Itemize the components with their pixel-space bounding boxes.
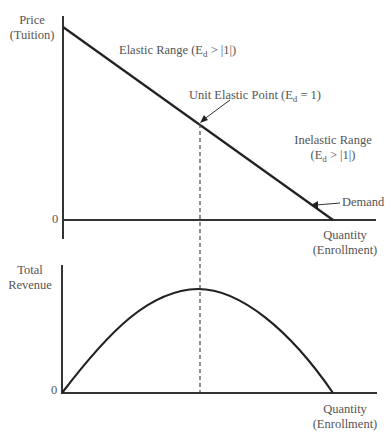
unit-point-arrow [203, 100, 230, 120]
unit-elastic-point-label: Unit Elastic Point (Ed = 1) [189, 88, 321, 103]
quantity-line2: (Enrollment) [300, 243, 390, 258]
tr-label-line2: Revenue [2, 278, 58, 293]
top-origin-label: 0 [52, 212, 58, 227]
inelastic-line1: Inelastic Range [283, 133, 383, 148]
quantity-line2: (Enrollment) [300, 417, 390, 432]
tr-label-line1: Total [2, 263, 58, 278]
elastic-range-label: Elastic Range (Ed > |1|) [119, 43, 236, 58]
total-revenue-curve [62, 289, 333, 393]
price-label-line1: Price [4, 13, 60, 28]
demand-arrow [316, 203, 340, 205]
total-revenue-axis-label: Total Revenue [2, 263, 58, 293]
price-axis-label: Price (Tuition) [4, 13, 60, 43]
price-label-line2: (Tuition) [4, 28, 60, 43]
quantity-line1: Quantity [300, 228, 390, 243]
top-quantity-axis-label: Quantity (Enrollment) [300, 228, 390, 258]
inelastic-range-label: Inelastic Range (Ed > |1|) [283, 133, 383, 163]
bottom-quantity-axis-label: Quantity (Enrollment) [300, 402, 390, 432]
arrowhead-icon [200, 115, 208, 123]
demand-label: Demand [342, 195, 384, 210]
bottom-origin-label: 0 [51, 383, 57, 398]
quantity-line1: Quantity [300, 402, 390, 417]
inelastic-line2: (Ed > |1|) [283, 148, 383, 163]
elasticity-diagram [0, 0, 391, 442]
